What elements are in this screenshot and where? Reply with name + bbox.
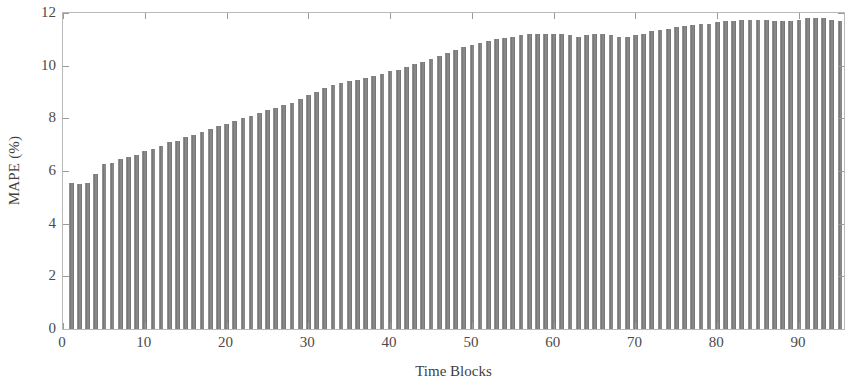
bar (85, 183, 90, 329)
bar (134, 155, 139, 329)
bar (69, 183, 74, 329)
bar (813, 18, 818, 329)
bar (404, 67, 409, 329)
bar (249, 116, 254, 329)
x-axis-tick-mark (227, 323, 228, 329)
mape-bar-chart-figure: MAPE (%) 024681012 0102030405060708090 T… (0, 0, 853, 388)
bar (461, 47, 466, 329)
plot-area (62, 12, 845, 330)
bar (175, 141, 180, 329)
y-axis-tick-label: 10 (2, 56, 56, 73)
bar (641, 34, 646, 329)
bar (232, 121, 237, 329)
x-axis-tick-label: 90 (791, 334, 806, 351)
bar (821, 18, 826, 329)
y-axis-tick-mark (838, 329, 844, 330)
bar (600, 34, 605, 329)
bar (322, 88, 327, 329)
bar (429, 59, 434, 329)
bar (543, 34, 548, 329)
bar (453, 50, 458, 329)
bar (494, 39, 499, 329)
y-axis-tick-label: 8 (2, 109, 56, 126)
y-axis-tick-label: 2 (2, 267, 56, 284)
bar (257, 113, 262, 329)
bar (470, 45, 475, 329)
y-axis-tick-labels: 024681012 (0, 12, 56, 330)
x-axis-tick-label: 20 (218, 334, 233, 351)
bar (568, 35, 573, 329)
bar (764, 20, 769, 329)
bar-series (63, 13, 844, 329)
bar (159, 146, 164, 329)
y-axis-tick-mark (838, 171, 844, 172)
x-axis-tick-mark (145, 13, 146, 19)
x-axis-tick-mark (63, 323, 64, 329)
bar (739, 20, 744, 329)
bar (445, 53, 450, 330)
bar (200, 132, 205, 330)
y-axis-tick-label: 0 (2, 320, 56, 337)
bar (551, 34, 556, 329)
bar (167, 142, 172, 329)
y-axis-tick-mark (63, 276, 69, 277)
bar (347, 81, 352, 329)
bar (748, 20, 753, 329)
x-axis-tick-label: 30 (300, 334, 315, 351)
bar (666, 29, 671, 329)
x-axis-tick-mark (145, 323, 146, 329)
x-axis-title: Time Blocks (62, 363, 845, 380)
bar (331, 85, 336, 329)
bar (838, 21, 843, 329)
bar (617, 37, 622, 329)
bar (412, 64, 417, 329)
bar (633, 35, 638, 329)
bar (437, 56, 442, 329)
y-axis-tick-mark (838, 118, 844, 119)
bar (756, 20, 761, 329)
bar (93, 174, 98, 329)
y-axis-tick-label: 4 (2, 214, 56, 231)
bar (674, 27, 679, 329)
bar (380, 74, 385, 329)
bar (690, 25, 695, 329)
x-axis-tick-mark (799, 323, 800, 329)
x-axis-tick-mark (308, 13, 309, 19)
bar (699, 24, 704, 329)
bar (142, 151, 147, 329)
bar (609, 35, 614, 329)
bar (126, 157, 131, 329)
x-axis-tick-label: 40 (382, 334, 397, 351)
bar (102, 164, 107, 329)
bar (306, 95, 311, 329)
bar (649, 31, 654, 329)
x-axis-tick-label: 80 (709, 334, 724, 351)
bar (314, 92, 319, 329)
bar (584, 35, 589, 329)
bar (510, 37, 515, 329)
bar (151, 149, 156, 329)
bar (715, 22, 720, 329)
y-axis-tick-label: 6 (2, 162, 56, 179)
x-axis-tick-label: 50 (463, 334, 478, 351)
bar (576, 37, 581, 329)
x-axis-tick-mark (635, 323, 636, 329)
x-axis-tick-mark (63, 13, 64, 19)
x-axis-tick-mark (717, 323, 718, 329)
bar (363, 78, 368, 329)
bar (658, 30, 663, 329)
bar (273, 108, 278, 329)
bar (559, 34, 564, 329)
bar (535, 34, 540, 329)
x-axis-tick-mark (635, 13, 636, 19)
bar (682, 26, 687, 329)
y-axis-tick-mark (63, 118, 69, 119)
bar (780, 21, 785, 329)
bar (241, 118, 246, 329)
bar (772, 21, 777, 329)
bar (183, 137, 188, 329)
bar (420, 62, 425, 329)
bar (731, 21, 736, 329)
y-axis-tick-mark (838, 66, 844, 67)
x-axis-tick-mark (308, 323, 309, 329)
